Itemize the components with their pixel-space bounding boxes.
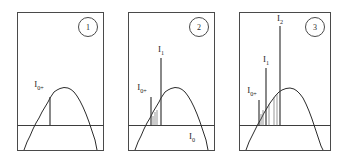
panel-1: I0+ 1: [8, 0, 108, 162]
panel-badge-label: 1: [86, 23, 90, 32]
panel-1-frame: [18, 13, 104, 151]
panel-2: I1 I0+ I0 2: [119, 0, 219, 162]
panel-3-frame: [240, 13, 331, 151]
panel-badge-label: 2: [197, 23, 201, 32]
panel-3: I2 I1 I0+ 3: [230, 0, 336, 162]
panel-2-frame: [129, 13, 215, 151]
figure-container: I0+ 1 I1 I0+ I0 2: [0, 0, 344, 162]
panel-badge-label: 3: [313, 23, 317, 32]
